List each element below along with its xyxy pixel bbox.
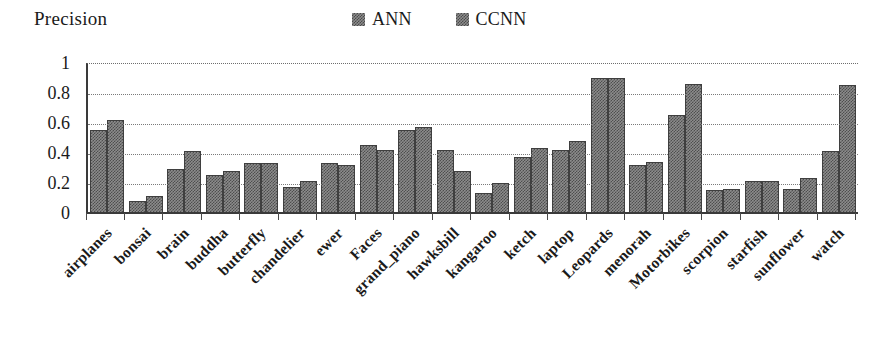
x-label-cell: chandelier <box>279 220 318 330</box>
x-label-cell: airplanes <box>86 220 125 330</box>
x-label-cell: bonsai <box>125 220 164 330</box>
y-axis-tick-label: 0.4 <box>48 143 71 164</box>
x-label-cell: watch <box>818 220 857 330</box>
bar-group <box>165 64 204 214</box>
bar-group <box>781 64 820 214</box>
x-label-cell: ketch <box>510 220 549 330</box>
bar-group <box>242 64 281 214</box>
bar-group <box>589 64 628 214</box>
y-axis-tick-label: 0.2 <box>48 173 71 194</box>
bar-group <box>204 64 243 214</box>
gridline <box>88 94 858 95</box>
x-axis-tick-labels: airplanesbonsaibrainbuddhabutterflychand… <box>86 220 856 330</box>
bar <box>591 78 608 215</box>
x-label-cell: Leopards <box>587 220 626 330</box>
legend-entry-ann: ANN <box>352 9 412 30</box>
bar-group <box>550 64 589 214</box>
bar <box>608 78 625 215</box>
x-label-cell: scorpion <box>702 220 741 330</box>
x-label-cell: Motorbikes <box>664 220 703 330</box>
legend-label-ccnn: CCNN <box>476 9 527 30</box>
checkered-square-icon <box>456 13 469 26</box>
chart-title: Precision <box>34 8 107 30</box>
y-axis-tick-label: 1 <box>61 53 70 74</box>
y-axis-tick-label: 0.6 <box>48 113 71 134</box>
bar-group <box>358 64 397 214</box>
bar <box>360 145 377 214</box>
checkered-square-icon <box>352 13 365 26</box>
legend-label-ann: ANN <box>372 9 412 30</box>
x-label-cell: kangaroo <box>471 220 510 330</box>
plot-area <box>86 63 858 214</box>
bar <box>90 130 107 214</box>
y-axis-tick-label: 0.8 <box>48 83 71 104</box>
chart-legend: ANN CCNN <box>352 9 526 30</box>
x-axis-tick-label-text: ewer <box>311 224 347 260</box>
bar <box>107 120 124 215</box>
y-axis-tick-label: 0 <box>61 203 70 224</box>
legend-entry-ccnn: CCNN <box>456 9 527 30</box>
x-label-cell: sunflower <box>779 220 818 330</box>
x-label-cell: brain <box>163 220 202 330</box>
x-label-cell: ewer <box>317 220 356 330</box>
x-axis-tick-label-text: airplanes <box>59 224 116 281</box>
gridline <box>88 154 858 155</box>
bar <box>415 127 432 214</box>
precision-bar-chart: Precision ANN CCNN 00.20.40.60.81 airpla… <box>0 0 880 342</box>
bar-group <box>88 64 127 214</box>
y-axis-tick-labels: 00.20.40.60.81 <box>0 63 80 213</box>
gridline <box>88 124 858 125</box>
bar <box>569 141 586 215</box>
bar-group <box>396 64 435 214</box>
x-label-cell: buddha <box>202 220 241 330</box>
bar-groups <box>88 64 858 214</box>
